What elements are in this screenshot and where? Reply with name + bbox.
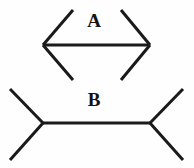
figure-b-fin-top-right (150, 89, 183, 123)
figure-b-fin-bottom-left (10, 123, 43, 160)
figure-a-fin-bottom-right (121, 45, 150, 80)
figure-a-label: A (74, 11, 114, 30)
figure-b-fin-bottom-right (150, 123, 183, 160)
figure-a-fin-bottom-left (43, 45, 73, 80)
muller-lyer-figure: A B (0, 0, 194, 168)
figure-a-fin-top-left (43, 10, 73, 45)
figure-a-fin-top-right (121, 10, 150, 45)
figure-b-label: B (74, 90, 114, 109)
figure-b-fin-top-left (10, 89, 43, 123)
